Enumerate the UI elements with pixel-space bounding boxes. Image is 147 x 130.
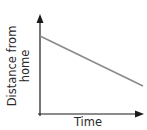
y-axis-label: Distance from home: [6, 21, 32, 111]
y-axis-arrow-icon: [37, 14, 44, 23]
x-axis-arrow-icon: [135, 111, 144, 118]
distance-time-chart: Distance from home Time: [0, 0, 147, 130]
distance-line: [40, 36, 143, 86]
y-axis-label-line-2: home: [19, 21, 32, 111]
x-axis-label: Time: [66, 116, 110, 129]
